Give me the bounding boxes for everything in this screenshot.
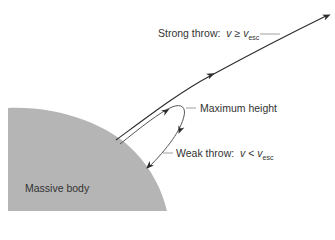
weak-throw-arrow-up-icon [158,111,166,116]
maximum-height-label: Maximum height [200,103,277,114]
massive-body-label: Massive body [25,183,89,194]
strong-throw-label: Strong throw: v ≥ vesc [158,28,259,41]
weak-throw-arrow-return-icon [149,159,156,166]
weak-throw-label: Weak throw: v < vesc [176,148,273,161]
massive-body-shape [8,108,167,211]
